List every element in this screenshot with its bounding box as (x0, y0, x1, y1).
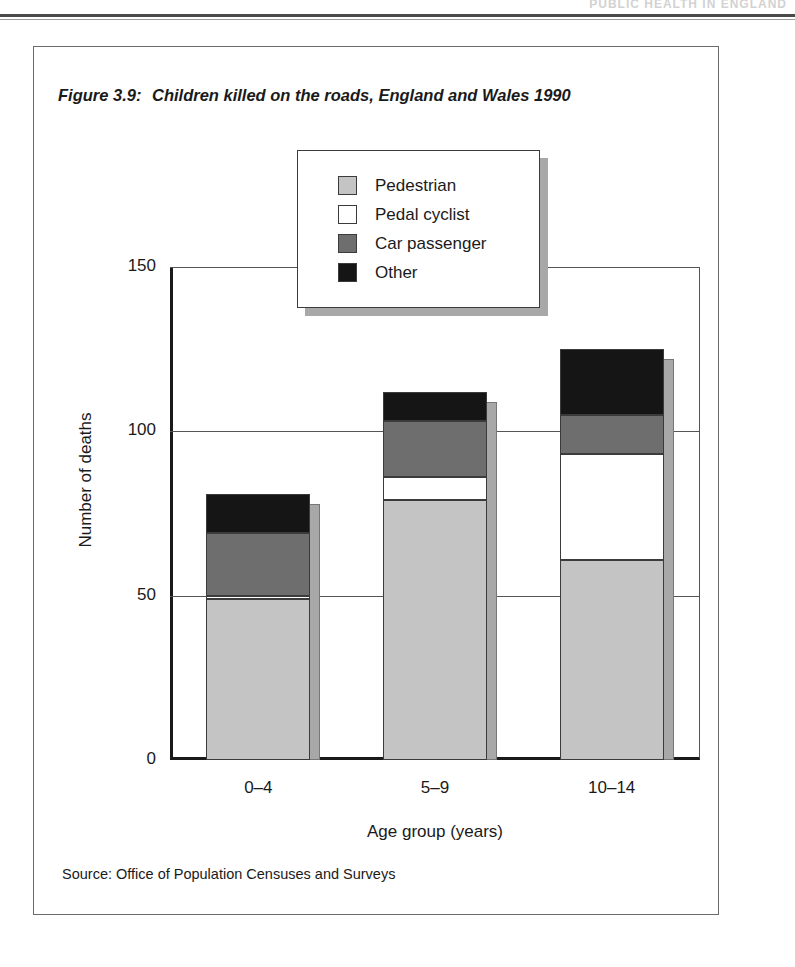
legend-swatch-icon (338, 176, 357, 195)
legend-swatch-icon (338, 234, 357, 253)
chart-legend: PedestrianPedal cyclistCar passengerOthe… (297, 150, 540, 308)
bar-segment[interactable] (206, 599, 310, 760)
bar-segment[interactable] (560, 560, 664, 760)
bar-segment[interactable] (206, 596, 310, 599)
legend-swatch-icon (338, 205, 357, 224)
legend-item[interactable]: Pedestrian (338, 171, 539, 200)
bar-segment[interactable] (206, 494, 310, 533)
legend-item-label: Car passenger (375, 234, 487, 254)
y-axis-title: Number of deaths (76, 370, 96, 590)
legend-item-label: Pedestrian (375, 176, 456, 196)
y-tick-value: 50 (137, 585, 156, 605)
running-head-text: PUBLIC HEALTH IN ENGLAND (589, 0, 787, 11)
x-tick-label: 5–9 (347, 778, 524, 798)
bar-stack[interactable] (560, 349, 664, 760)
bar-segment[interactable] (383, 421, 487, 477)
figure-number: Figure 3.9: (58, 86, 152, 105)
bar-segment[interactable] (383, 477, 487, 500)
y-tick-value: 150 (128, 256, 156, 276)
y-tick-value: 0 (147, 749, 156, 769)
header-rule-thick (0, 14, 795, 17)
bar-segment[interactable] (206, 533, 310, 595)
x-axis-title: Age group (years) (170, 822, 700, 842)
figure-caption: Figure 3.9:Children killed on the roads,… (58, 86, 678, 105)
legend-item[interactable]: Pedal cyclist (338, 200, 539, 229)
legend-item-label: Other (375, 263, 418, 283)
figure-title-text: Children killed on the roads, England an… (152, 86, 571, 104)
legend-item[interactable]: Other (338, 258, 539, 287)
legend-swatch-icon (338, 263, 357, 282)
bar-segment[interactable] (560, 454, 664, 559)
legend-item[interactable]: Car passenger (338, 229, 539, 258)
x-tick-label: 10–14 (523, 778, 700, 798)
bar-segment[interactable] (560, 349, 664, 415)
source-note: Source: Office of Population Censuses an… (62, 866, 395, 882)
bar-segment[interactable] (383, 500, 487, 760)
header-rule-thin (0, 19, 795, 20)
bar-stack[interactable] (206, 494, 310, 760)
bar-segment[interactable] (383, 392, 487, 422)
legend-item-label: Pedal cyclist (375, 205, 469, 225)
bar-segment[interactable] (560, 415, 664, 454)
bar-stack[interactable] (383, 392, 487, 760)
x-tick-label: 0–4 (170, 778, 347, 798)
page-header: PUBLIC HEALTH IN ENGLAND (0, 0, 795, 26)
y-tick-value: 100 (128, 420, 156, 440)
